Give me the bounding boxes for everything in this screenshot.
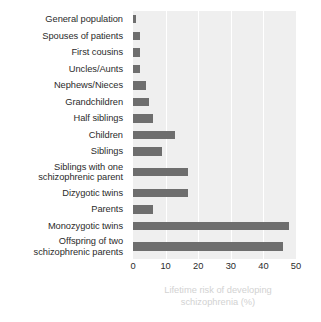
category-label: Grandchildren [65, 97, 123, 107]
category-label-row: General population [0, 11, 128, 28]
bar [133, 189, 188, 197]
bar-row [133, 77, 296, 94]
bar-row [133, 127, 296, 144]
category-label-row: Dizygotic twins [0, 185, 128, 202]
bar [133, 131, 175, 139]
x-axis-title: Lifetime risk of developing schizophreni… [128, 285, 308, 308]
bar [133, 147, 162, 155]
category-label-row: Uncles/Aunts [0, 61, 128, 78]
bar-row [133, 143, 296, 160]
bar-row [133, 61, 296, 78]
category-label-row: Monozygotic twins [0, 218, 128, 235]
category-label-row: Nephews/Nieces [0, 77, 128, 94]
category-label: Spouses of patients [42, 31, 123, 41]
category-label: Siblings with one schizophrenic parent [38, 162, 123, 183]
bar [133, 65, 140, 73]
category-label-row: Siblings with one schizophrenic parent [0, 160, 128, 185]
bar-row [133, 234, 296, 259]
plot-area [133, 11, 296, 259]
category-axis: General populationSpouses of patientsFir… [0, 11, 128, 259]
gridline [296, 11, 297, 259]
category-label: Siblings [91, 146, 123, 156]
category-label: Dizygotic twins [62, 188, 123, 198]
bar [133, 242, 283, 250]
bar-row [133, 11, 296, 28]
category-label-row: Spouses of patients [0, 28, 128, 45]
bar [133, 98, 149, 106]
x-axis: 01020304050 [133, 261, 296, 275]
bar-row [133, 185, 296, 202]
category-label: Half siblings [74, 113, 123, 123]
bar [133, 15, 136, 23]
bar-row [133, 110, 296, 127]
bar [133, 32, 140, 40]
bar-series [133, 11, 296, 259]
bar [133, 222, 289, 230]
category-label: Monozygotic twins [48, 221, 123, 231]
x-tick-label: 20 [193, 261, 203, 272]
x-tick-label: 50 [291, 261, 301, 272]
category-label-row: Parents [0, 201, 128, 218]
bar [133, 48, 140, 56]
bar-row [133, 218, 296, 235]
category-label: General population [45, 14, 123, 24]
schizophrenia-risk-bar-chart: General populationSpouses of patientsFir… [0, 0, 321, 322]
category-label-row: First cousins [0, 44, 128, 61]
x-tick-label: 40 [258, 261, 268, 272]
bar [133, 81, 146, 89]
x-tick-label: 30 [226, 261, 236, 272]
category-label: Offspring of two schizophrenic parents [34, 236, 123, 257]
bar-row [133, 44, 296, 61]
category-label-row: Offspring of two schizophrenic parents [0, 234, 128, 259]
bar-row [133, 201, 296, 218]
bar [133, 168, 188, 176]
bar-row [133, 94, 296, 111]
x-tick-label: 0 [130, 261, 135, 272]
category-label-row: Grandchildren [0, 94, 128, 111]
category-label: Parents [91, 204, 123, 214]
category-label: Uncles/Aunts [69, 64, 123, 74]
category-label-row: Children [0, 127, 128, 144]
bar [133, 114, 153, 122]
x-tick-label: 10 [160, 261, 170, 272]
category-label: First cousins [71, 47, 123, 57]
category-label: Nephews/Nieces [54, 80, 123, 90]
bar-row [133, 28, 296, 45]
bar [133, 205, 153, 213]
category-label: Children [89, 130, 123, 140]
category-label-row: Siblings [0, 143, 128, 160]
bar-row [133, 160, 296, 185]
category-label-row: Half siblings [0, 110, 128, 127]
